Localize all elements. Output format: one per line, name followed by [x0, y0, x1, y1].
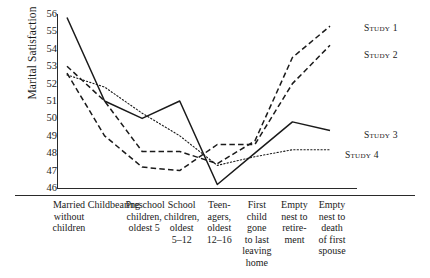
x-category-4-line-0: Teen- — [201, 199, 239, 211]
x-category-1-line-0: Childbearing — [88, 199, 126, 211]
x-category-3-line-2: oldest — [163, 222, 201, 234]
legend-label-study-3: Study 3 — [364, 129, 398, 140]
y-tick-55: 55 — [35, 26, 57, 36]
legend-label-study-4: Study 4 — [345, 149, 379, 160]
x-axis-category-labels: MarriedwithoutchildrenChildbearingPresch… — [57, 199, 357, 275]
x-category-7-line-3: of first — [313, 234, 351, 246]
x-category-7: Emptynest todeathof firstspouse — [313, 199, 351, 257]
y-tick-47: 47 — [35, 166, 57, 176]
series-lines — [57, 14, 357, 188]
x-category-3-line-0: School — [163, 199, 201, 211]
x-category-3: Schoolchildren,oldest5–12 — [163, 199, 201, 245]
x-category-4-line-2: oldest — [201, 222, 239, 234]
y-tick-56: 56 — [35, 9, 57, 19]
x-category-7-line-4: spouse — [313, 245, 351, 257]
y-tick-53: 53 — [35, 61, 57, 71]
x-category-0: Marriedwithoutchildren — [50, 199, 88, 234]
x-category-6-line-0: Empty — [276, 199, 314, 211]
marital-satisfaction-line-chart: Marital Satisfaction 5655545352515049484… — [0, 0, 430, 278]
y-tick-50: 50 — [35, 113, 57, 123]
x-category-5-line-4: leaving — [238, 245, 276, 257]
x-category-0-line-2: children — [50, 222, 88, 234]
x-category-5-line-0: First — [238, 199, 276, 211]
x-category-2-line-1: children, — [125, 211, 163, 223]
y-tick-46: 46 — [35, 183, 57, 193]
x-category-6-line-2: retire- — [276, 222, 314, 234]
figure-bottom-rule — [15, 195, 415, 196]
y-tick-51: 51 — [35, 96, 57, 106]
x-category-2: Preschoolchildren,oldest 5 — [125, 199, 163, 234]
x-category-5: Firstchildgoneto lastleavinghome — [238, 199, 276, 269]
x-category-5-line-2: gone — [238, 222, 276, 234]
x-category-0-line-0: Married — [50, 199, 88, 211]
x-category-3-line-1: children, — [163, 211, 201, 223]
x-category-2-line-2: oldest 5 — [125, 222, 163, 234]
series-line-study-2 — [67, 45, 330, 170]
x-category-6: Emptynest toretire-ment — [276, 199, 314, 245]
x-category-6-line-3: ment — [276, 234, 314, 246]
x-category-1: Childbearing — [88, 199, 126, 211]
x-category-4: Teen-agers,oldest12–16 — [201, 199, 239, 245]
x-category-7-line-1: nest to — [313, 211, 351, 223]
legend-label-study-1: Study 1 — [364, 22, 398, 33]
x-axis-line — [57, 188, 357, 189]
x-category-7-line-0: Empty — [313, 199, 351, 211]
plot-area — [57, 14, 357, 188]
x-category-5-line-1: child — [238, 211, 276, 223]
x-category-4-line-3: 12–16 — [201, 234, 239, 246]
y-tick-49: 49 — [35, 131, 57, 141]
x-category-5-line-5: home — [238, 257, 276, 269]
x-category-7-line-2: death — [313, 222, 351, 234]
y-tick-52: 52 — [35, 79, 57, 89]
series-line-study-3 — [67, 17, 330, 184]
y-tick-48: 48 — [35, 148, 57, 158]
x-category-6-line-1: nest to — [276, 211, 314, 223]
y-tick-54: 54 — [35, 44, 57, 54]
x-category-5-line-3: to last — [238, 234, 276, 246]
x-category-2-line-0: Preschool — [125, 199, 163, 211]
x-category-3-line-3: 5–12 — [163, 234, 201, 246]
x-category-0-line-1: without — [50, 211, 88, 223]
y-axis-tick-labels: 5655545352515049484746 — [33, 0, 57, 200]
series-line-study-4 — [67, 75, 330, 165]
legend-label-study-2: Study 2 — [364, 49, 398, 60]
x-category-4-line-1: agers, — [201, 211, 239, 223]
